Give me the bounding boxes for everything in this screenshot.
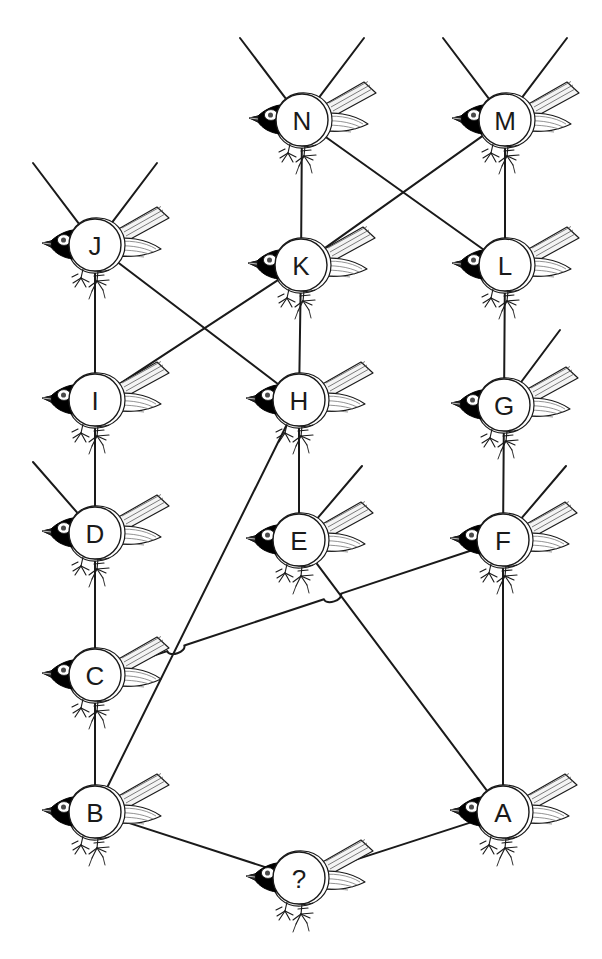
node-L[interactable]: L (479, 239, 531, 291)
node-label: L (498, 251, 512, 281)
node-label: A (494, 798, 512, 828)
node-label: J (89, 231, 102, 261)
node-J[interactable]: J (69, 219, 121, 271)
node-M[interactable]: M (479, 94, 531, 146)
node-label: I (91, 386, 98, 416)
bird-network-svg: NMJKLIHGDEFCBA? (0, 0, 602, 959)
node-label: N (293, 106, 312, 136)
node-label: D (86, 519, 105, 549)
node-B[interactable]: B (69, 786, 121, 838)
edge-K-H (299, 289, 300, 376)
node-label: G (494, 391, 514, 421)
node-H[interactable]: H (273, 374, 325, 426)
node-K[interactable]: K (275, 239, 327, 291)
node-label: K (292, 251, 310, 281)
node-E[interactable]: E (273, 514, 325, 566)
node-label: H (290, 386, 309, 416)
node-label: M (494, 106, 516, 136)
node-G[interactable]: G (478, 379, 530, 431)
node-C[interactable]: C (69, 649, 121, 701)
node-Q[interactable]: ? (273, 852, 325, 904)
node-A[interactable]: A (477, 786, 529, 838)
diagram-canvas: NMJKLIHGDEFCBA? (0, 0, 602, 959)
node-label: ? (292, 864, 306, 894)
node-label: E (290, 526, 307, 556)
node-D[interactable]: D (69, 507, 121, 559)
node-label: F (495, 526, 511, 556)
node-label: B (86, 798, 103, 828)
node-F[interactable]: F (477, 514, 529, 566)
node-N[interactable]: N (276, 94, 328, 146)
node-I[interactable]: I (69, 374, 121, 426)
node-label: C (86, 661, 105, 691)
